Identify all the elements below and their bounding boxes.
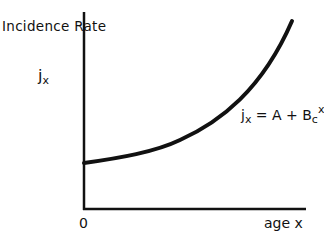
- x-origin-label: 0: [79, 215, 88, 231]
- incidence-curve: [84, 21, 292, 163]
- y-axis-label: Incidence Rate: [2, 18, 76, 34]
- x-axis-label: age x: [264, 215, 303, 231]
- curve-equation: jx = A + Bcx: [241, 102, 324, 128]
- eq-rhs: = A + B: [251, 107, 311, 123]
- y-axis-symbol: jx: [38, 68, 49, 89]
- y-symbol-sub: x: [42, 74, 49, 87]
- eq-sup: x: [318, 103, 324, 116]
- y-axis-label-text: Incidence Rate: [2, 18, 106, 34]
